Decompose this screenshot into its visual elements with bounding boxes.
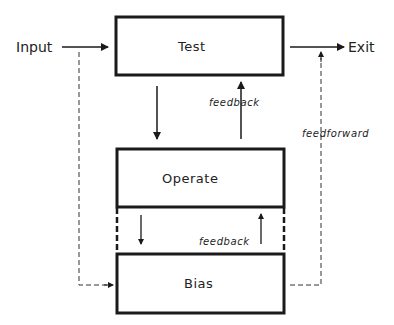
test-label: Test: [178, 40, 206, 53]
feedback-label-upper: feedback: [209, 98, 260, 108]
input-to-bias-dashed-path: [79, 52, 110, 285]
feedforward-label: feedforward: [302, 129, 369, 139]
feedforward-dashed-path: [290, 58, 321, 285]
exit-label: Exit: [348, 40, 375, 54]
operate-label: Operate: [162, 172, 218, 185]
feedback-label-lower: feedback: [199, 237, 250, 247]
input-label: Input: [16, 40, 52, 54]
bias-label: Bias: [184, 277, 213, 290]
